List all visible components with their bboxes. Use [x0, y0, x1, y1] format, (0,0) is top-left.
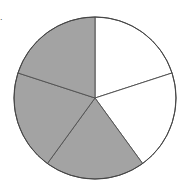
pie-slices [14, 17, 176, 179]
pie-chart-figure: . [0, 0, 183, 183]
pie-chart [0, 0, 183, 183]
